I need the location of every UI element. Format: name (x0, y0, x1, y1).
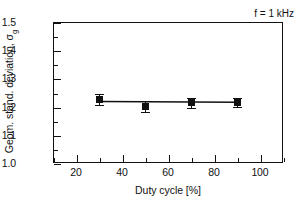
data-point-marker (142, 103, 149, 110)
y-axis-tick-label: 1.1 (0, 130, 16, 141)
y-axis-tick-label: 1.2 (0, 102, 16, 113)
y-axis-tick-label: 1.0 (0, 158, 16, 169)
x-axis-tick-label: 100 (240, 167, 280, 178)
y-axis-tick-label: 1.3 (0, 73, 16, 84)
chart-figure: Geom. stand. deviation, σg Duty cycle [%… (0, 0, 303, 205)
data-point-marker (96, 96, 103, 103)
y-axis-tick-label: 1.4 (0, 45, 16, 56)
error-bar-cap (95, 105, 104, 106)
x-axis-tick-label: 20 (56, 167, 96, 178)
error-bar-cap (141, 101, 150, 102)
error-bar-cap (141, 112, 150, 113)
x-axis-tick-label: 40 (102, 167, 142, 178)
data-point-marker (188, 99, 195, 106)
error-bar-cap (187, 108, 196, 109)
y-axis-tick-label: 1.5 (0, 17, 16, 28)
data-point-marker (234, 99, 241, 106)
x-axis-tick-label: 80 (194, 167, 234, 178)
x-axis-tick-label: 60 (148, 167, 188, 178)
error-bar-cap (233, 107, 242, 108)
